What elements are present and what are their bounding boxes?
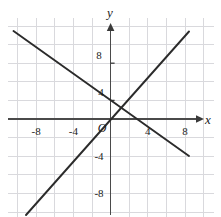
x-tick-label-pos8: 8 [182,125,188,137]
x-tick-label-neg4: -4 [69,125,79,137]
coordinate-plane-graph: x y O -8 -4 4 8 8 4 -4 -8 [0,0,221,217]
plot-svg: x y O -8 -4 4 8 8 4 -4 -8 [0,0,221,217]
y-tick-label-neg4: -4 [94,150,104,162]
y-axis-label: y [105,5,113,20]
y-tick-label-neg8: -8 [94,187,104,199]
y-tick-label-pos4: 4 [98,86,104,98]
x-tick-label-neg8: -8 [32,125,42,137]
x-tick-label-pos4: 4 [145,125,151,137]
y-tick-label-pos8: 8 [96,49,102,61]
x-axis-label: x [204,112,211,127]
origin-label: O [98,121,107,135]
